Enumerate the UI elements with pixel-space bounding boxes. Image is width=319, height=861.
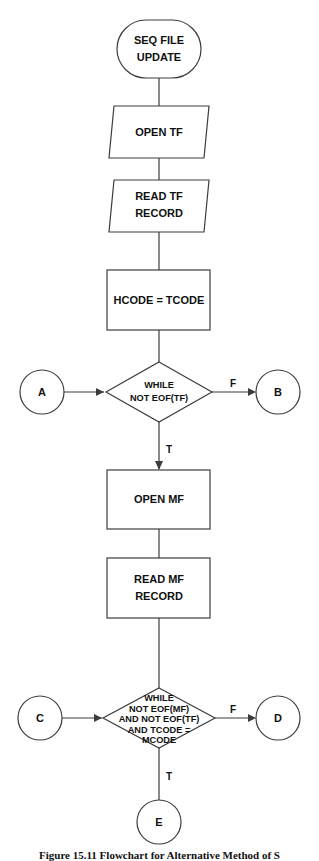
arrow-head-icon-into-decision-mf xyxy=(94,714,102,722)
open-tf-label: OPEN TF xyxy=(135,126,183,138)
hcode-assign-label: HCODE = TCODE xyxy=(114,294,205,306)
node-terminal-start[interactable]: SEQ FILE UPDATE xyxy=(117,20,201,78)
node-read-tf[interactable]: READ TF RECORD xyxy=(109,180,209,232)
terminal-start-line-2: UPDATE xyxy=(137,51,181,63)
arrow-head-icon-into-b xyxy=(248,388,256,396)
branch-label-decision-mf-false: F xyxy=(230,704,236,715)
arrow-head-icon-into-d xyxy=(248,714,256,722)
read-tf-line-1: READ TF xyxy=(135,190,183,202)
connector-e[interactable]: E xyxy=(137,800,181,844)
arrow-head-icon-into-open-mf xyxy=(155,461,163,470)
node-read-mf[interactable]: READ MF RECORD xyxy=(107,558,210,618)
read-mf-line-2: RECORD xyxy=(135,590,183,602)
open-mf-label: OPEN MF xyxy=(134,493,184,505)
connector-d[interactable]: D xyxy=(256,696,300,740)
connector-a[interactable]: A xyxy=(20,370,64,414)
decision-tf-line-2: NOT EOF(TF) xyxy=(130,393,188,403)
read-mf-line-1: READ MF xyxy=(134,573,184,585)
decision-shape-tf xyxy=(106,362,212,422)
decision-mf-line-3: AND NOT EOF(TF) xyxy=(119,714,200,724)
decision-tf-line-1: WHILE xyxy=(144,380,174,390)
decision-mf-line-2: NOT EOF(MF) xyxy=(129,704,189,714)
branch-label-decision-mf-true: T xyxy=(166,771,172,782)
connector-d-label: D xyxy=(274,712,282,724)
node-hcode-assign[interactable]: HCODE = TCODE xyxy=(107,270,210,330)
figure-caption: Figure 15.11 Flowchart for Alternative M… xyxy=(0,849,319,861)
decision-mf-line-4: AND TCODE = xyxy=(128,725,191,735)
decision-mf-line-1: WHILE xyxy=(144,693,174,703)
connector-c[interactable]: C xyxy=(18,696,62,740)
connector-b-label: B xyxy=(274,386,282,398)
process-shape-read-mf xyxy=(107,558,210,618)
terminal-start-line-1: SEQ FILE xyxy=(134,34,184,46)
read-tf-line-2: RECORD xyxy=(135,207,183,219)
node-open-tf[interactable]: OPEN TF xyxy=(109,106,209,158)
arrow-head-icon-into-decision-tf xyxy=(96,388,104,396)
node-open-mf[interactable]: OPEN MF xyxy=(107,470,210,529)
branch-label-decision-tf-false: F xyxy=(230,378,236,389)
connector-c-label: C xyxy=(36,712,44,724)
decision-mf-line-5: MCODE xyxy=(142,735,176,745)
branch-label-decision-tf-true: T xyxy=(166,444,172,455)
node-decision-tf[interactable]: WHILE NOT EOF(TF) xyxy=(106,362,212,422)
connector-e-label: E xyxy=(155,816,162,828)
node-decision-mf[interactable]: WHILE NOT EOF(MF) AND NOT EOF(TF) AND TC… xyxy=(103,688,215,748)
connector-b[interactable]: B xyxy=(256,370,300,414)
flow-arrow-heads xyxy=(94,388,256,722)
terminator-shape xyxy=(117,20,201,78)
connector-a-label: A xyxy=(38,386,46,398)
